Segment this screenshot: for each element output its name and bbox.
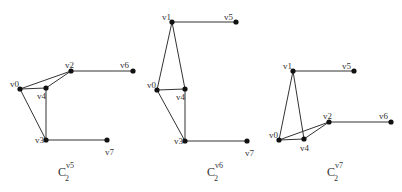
edge-v4-v2 — [304, 122, 329, 139]
vertex-label-v0: v0 — [147, 80, 157, 90]
vertex-label-v3: v3 — [174, 136, 184, 146]
vertex-label-v5: v5 — [342, 61, 352, 71]
vertex-label-v4: v4 — [300, 143, 310, 153]
caption-middle: C2v6 — [207, 161, 223, 183]
vertex-label-v3: v3 — [35, 135, 45, 145]
edge-v0-v4 — [157, 89, 185, 90]
vertex-v4 — [301, 136, 306, 141]
caption-right: C2v7 — [327, 161, 343, 183]
vertex-v6 — [388, 119, 393, 124]
edge-v1-v0 — [279, 71, 293, 140]
vertex-label-v1: v1 — [162, 12, 171, 22]
vertex-v6 — [130, 68, 135, 73]
caption-superscript: v6 — [215, 161, 223, 170]
edge-v1-v4 — [172, 22, 185, 89]
graph-right: v1v5v2v6v0v4C2v7 — [269, 61, 394, 183]
graph-diagram: v0v2v4v6v3v7C2v5v1v5v0v4v3v7C2v6v1v5v2v6… — [0, 0, 402, 192]
vertex-v3 — [43, 137, 48, 142]
edge-v1-v0 — [157, 22, 172, 90]
vertex-v4 — [43, 85, 48, 90]
caption-subscript: 2 — [214, 174, 218, 183]
caption-subscript: 2 — [65, 174, 69, 183]
caption-left: C2v5 — [58, 161, 74, 183]
caption-superscript: v7 — [335, 161, 343, 170]
vertex-v5 — [351, 68, 356, 73]
vertex-label-v2: v2 — [65, 60, 74, 70]
vertex-v7 — [104, 137, 109, 142]
graph-middle: v1v5v0v4v3v7C2v6 — [147, 12, 255, 183]
caption-subscript: 2 — [334, 174, 338, 183]
edge-v4-v2 — [46, 71, 71, 88]
vertex-label-v5: v5 — [224, 12, 234, 22]
graph-left: v0v2v4v6v3v7C2v5 — [10, 60, 136, 183]
vertex-label-v0: v0 — [269, 130, 279, 140]
vertex-v7 — [244, 138, 249, 143]
caption-superscript: v5 — [66, 161, 74, 170]
graphs-root: v0v2v4v6v3v7C2v5v1v5v0v4v3v7C2v6v1v5v2v6… — [10, 12, 394, 183]
edge-v1-v4 — [293, 71, 304, 139]
vertex-v5 — [233, 19, 238, 24]
vertex-v4 — [182, 86, 187, 91]
vertex-v3 — [182, 138, 187, 143]
vertex-label-v7: v7 — [245, 148, 255, 158]
vertex-label-v6: v6 — [120, 60, 130, 70]
vertex-label-v1: v1 — [283, 61, 292, 71]
vertex-label-v4: v4 — [37, 91, 47, 101]
vertex-label-v0: v0 — [10, 79, 20, 89]
vertex-label-v6: v6 — [379, 111, 389, 121]
vertex-label-v7: v7 — [105, 147, 115, 157]
vertex-label-v4: v4 — [176, 92, 186, 102]
vertex-label-v2: v2 — [323, 111, 332, 121]
